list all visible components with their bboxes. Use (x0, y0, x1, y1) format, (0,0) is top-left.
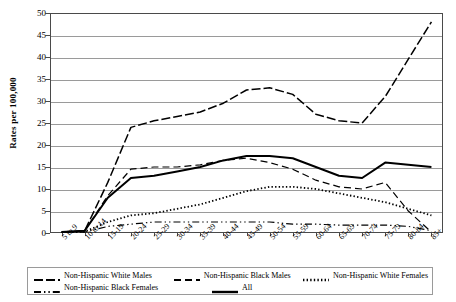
legend-row-2: Non-Hispanic Black Females All (33, 282, 428, 294)
legend-swatch-nh-black-males (173, 271, 201, 281)
legend-item-all[interactable]: All (211, 282, 252, 294)
y-axis-tick-labels: 05101520253035404550 (0, 0, 50, 247)
legend-swatch-all (211, 283, 239, 293)
legend-item-nh-white-females[interactable]: Non-Hispanic White Females (302, 270, 428, 282)
legend-item-nh-black-males[interactable]: Non-Hispanic Black Males (173, 270, 302, 282)
legend-label-nh-black-females: Non-Hispanic Black Females (64, 283, 158, 293)
legend-swatch-all-glyph (211, 287, 239, 297)
legend-swatch-nh-white-females-glyph (302, 275, 330, 285)
chart-legend: Non-Hispanic White Males Non-Hispanic Bl… (27, 267, 433, 295)
legend-label-nh-black-males: Non-Hispanic Black Males (204, 271, 291, 281)
legend-swatch-nh-white-females (302, 271, 330, 281)
line-chart: Rates per 100,000 05101520253035404550 5… (0, 0, 456, 302)
legend-swatch-nh-black-females-glyph (33, 287, 61, 297)
legend-label-all: All (242, 283, 252, 293)
legend-swatch-nh-black-females (33, 283, 61, 293)
legend-item-nh-black-females[interactable]: Non-Hispanic Black Females (33, 282, 211, 294)
legend-swatch-nh-white-males (33, 271, 61, 281)
legend-label-nh-white-females: Non-Hispanic White Females (333, 271, 428, 281)
series-layer (50, 13, 443, 233)
legend-label-nh-white-males: Non-Hispanic White Males (64, 271, 152, 281)
series-line (62, 156, 432, 232)
legend-item-nh-white-males[interactable]: Non-Hispanic White Males (33, 270, 173, 282)
legend-row-1: Non-Hispanic White Males Non-Hispanic Bl… (33, 270, 428, 282)
